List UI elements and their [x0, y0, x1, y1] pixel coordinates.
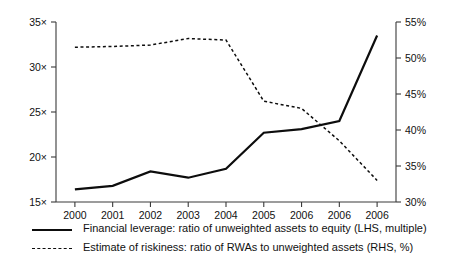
- x-axis-ticks: [75, 202, 377, 207]
- legend-label-estimate-of-riskiness: Estimate of riskiness: ratio of RWAs to …: [83, 241, 413, 254]
- legend-label-financial-leverage: Financial leverage: ratio of unweighted …: [83, 222, 427, 235]
- legend-swatch-solid-line-icon: [29, 223, 75, 235]
- right-axis-tick-labels: 30%35%40%45%50%55%: [405, 16, 426, 208]
- legend-swatch-dashed-line-icon: [29, 242, 75, 254]
- left-axis-ticks: [51, 22, 56, 202]
- left-axis-tick-labels: 15×20×25×30×35×: [29, 16, 47, 208]
- chart-legend: Financial leverage: ratio of unweighted …: [0, 219, 452, 257]
- right-tick-label: 30%: [405, 196, 426, 208]
- left-tick-label: 35×: [29, 16, 47, 28]
- right-tick-label: 45%: [405, 88, 426, 100]
- chart-container: 15×20×25×30×35× 30%35%40%45%50%55% 20002…: [0, 0, 452, 260]
- right-tick-label: 35%: [405, 160, 426, 172]
- left-tick-label: 15×: [29, 196, 47, 208]
- left-tick-label: 20×: [29, 151, 47, 163]
- left-tick-label: 30×: [29, 61, 47, 73]
- series-line-estimate-of-riskiness: [75, 39, 377, 181]
- right-axis: 30%35%40%45%50%55%: [396, 16, 426, 208]
- legend-item-estimate-of-riskiness: Estimate of riskiness: ratio of RWAs to …: [0, 238, 452, 257]
- left-axis: 15×20×25×30×35×: [29, 16, 56, 208]
- legend-item-financial-leverage: Financial leverage: ratio of unweighted …: [0, 219, 452, 238]
- left-tick-label: 25×: [29, 106, 47, 118]
- right-tick-label: 55%: [405, 16, 426, 28]
- series-line-financial-leverage: [75, 36, 377, 190]
- right-axis-ticks: [396, 22, 401, 202]
- right-tick-label: 50%: [405, 52, 426, 64]
- right-tick-label: 40%: [405, 124, 426, 136]
